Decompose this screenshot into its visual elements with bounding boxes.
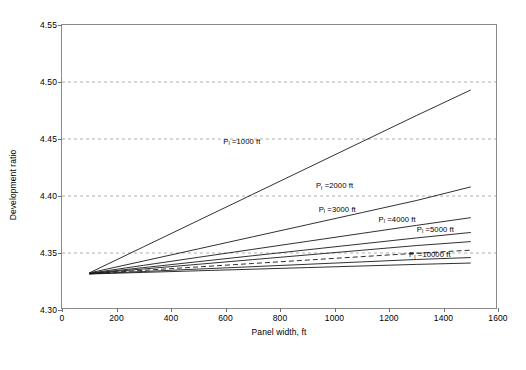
x-tick-label: 200: [109, 314, 123, 323]
x-tick-label: 1400: [434, 314, 453, 323]
x-tick-mark: [62, 308, 63, 312]
y-tick-mark: [58, 196, 62, 197]
series-annotation: Pl =2000 ft: [316, 182, 353, 190]
x-axis-title: Panel width, ft: [61, 327, 497, 337]
series-annotation: Pl =5000 ft: [417, 226, 454, 234]
series-annotation: Pl =10000 ft: [409, 251, 451, 259]
x-tick-mark: [171, 308, 172, 312]
figure-container: Development ratio 4.304.354.404.454.504.…: [0, 0, 526, 370]
x-tick-label: 1600: [488, 314, 507, 323]
x-tick-mark: [444, 308, 445, 312]
plot-lines: [62, 25, 498, 310]
y-tick-label: 4.40: [40, 192, 57, 201]
plot-area: 4.304.354.404.454.504.550200400600800100…: [61, 24, 497, 309]
y-tick-mark: [58, 139, 62, 140]
x-tick-mark: [335, 308, 336, 312]
x-tick-label: 0: [60, 314, 65, 323]
y-tick-label: 4.50: [40, 78, 57, 87]
x-tick-mark: [226, 308, 227, 312]
figure-caption: [8, 362, 428, 370]
series-annotation: Pl =1000 ft: [223, 138, 260, 146]
x-tick-mark: [389, 308, 390, 312]
x-tick-mark: [498, 308, 499, 312]
series-annotation: Pl =4000 ft: [379, 216, 416, 224]
y-tick-mark: [58, 82, 62, 83]
x-tick-label: 1200: [379, 314, 398, 323]
y-tick-mark: [58, 253, 62, 254]
y-tick-label: 4.30: [40, 306, 57, 315]
x-tick-mark: [280, 308, 281, 312]
x-tick-label: 600: [218, 314, 232, 323]
y-tick-label: 4.35: [40, 249, 57, 258]
y-tick-mark: [58, 25, 62, 26]
x-tick-label: 800: [273, 314, 287, 323]
y-axis-title: Development ratio: [8, 150, 18, 221]
x-tick-mark: [117, 308, 118, 312]
series-annotation: Pl =3000 ft: [319, 206, 356, 214]
y-tick-label: 4.55: [40, 21, 57, 30]
x-tick-label: 1000: [325, 314, 344, 323]
x-tick-label: 400: [164, 314, 178, 323]
y-tick-label: 4.45: [40, 135, 57, 144]
